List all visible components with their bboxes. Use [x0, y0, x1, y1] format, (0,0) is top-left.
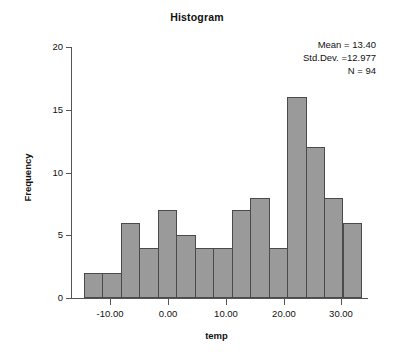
- histogram-bar: [287, 97, 306, 298]
- x-axis-tick: [226, 299, 227, 305]
- y-axis-tick-label: 5: [23, 230, 63, 240]
- histogram-bar: [176, 235, 195, 298]
- histogram-bar: [250, 198, 269, 298]
- x-axis-tick: [284, 299, 285, 305]
- x-axis-tick: [110, 299, 111, 305]
- x-axis-tick: [341, 299, 342, 305]
- histogram-bar: [324, 198, 343, 298]
- histogram-bar: [343, 223, 362, 298]
- y-axis-tick-label: 15: [23, 105, 63, 115]
- y-axis-tick-label: 0: [23, 293, 63, 303]
- x-axis-tick-label: -10.00: [80, 308, 140, 319]
- y-axis-tick: [66, 298, 72, 299]
- x-axis-title: temp: [72, 330, 361, 341]
- histogram-bar: [213, 248, 232, 298]
- x-axis-tick: [168, 299, 169, 305]
- histogram-bar: [121, 223, 140, 298]
- x-axis-tick-label: 10.00: [196, 308, 256, 319]
- histogram-bar: [306, 147, 325, 298]
- histogram-bar: [195, 248, 214, 298]
- plot-area: [72, 47, 361, 298]
- y-axis-tick-label: 20: [23, 42, 63, 52]
- y-axis-title: Frequency: [22, 133, 33, 223]
- x-axis-tick-label: 0.00: [138, 308, 198, 319]
- x-axis-tick-label: 20.00: [254, 308, 314, 319]
- chart-title: Histogram: [0, 11, 394, 23]
- x-axis-line: [71, 298, 368, 299]
- histogram-bar: [84, 273, 103, 298]
- histogram-bar: [232, 210, 251, 298]
- histogram-bar: [158, 210, 177, 298]
- histogram-bar: [269, 248, 288, 298]
- x-axis-tick-label: 30.00: [311, 308, 371, 319]
- histogram-bar: [139, 248, 158, 298]
- histogram-chart: Histogram Mean = 13.40 Std.Dev. =12.977 …: [0, 0, 394, 361]
- histogram-bar: [102, 273, 121, 298]
